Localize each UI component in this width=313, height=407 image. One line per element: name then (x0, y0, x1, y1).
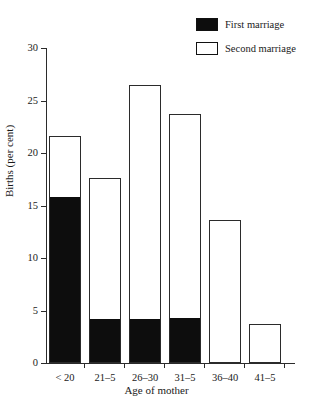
legend-label-first-marriage: First marriage (225, 19, 284, 30)
bar-category-0[interactable] (49, 136, 81, 363)
bar-chart-figure: First marriage Second marriage 0 5 10 15… (0, 0, 313, 407)
bar-segment-second-marriage (210, 221, 240, 362)
x-tick-2 (164, 363, 165, 368)
x-tick-label-3: 31–5 (169, 371, 201, 384)
bar-segment-second-marriage (130, 86, 160, 319)
x-tick-label-4: 36–40 (207, 371, 243, 384)
y-tick-label-10: 10 (28, 251, 39, 264)
y-tick-5: 5 (41, 311, 46, 312)
y-tick-label-15: 15 (28, 199, 39, 212)
x-tick-3 (204, 363, 205, 368)
y-tick-label-30: 30 (28, 41, 39, 54)
y-tick-15: 15 (41, 206, 46, 207)
x-tick-label-2: 26–30 (127, 371, 163, 384)
y-tick-10: 10 (41, 258, 46, 259)
legend-swatch-filled-icon (196, 18, 218, 31)
bar-category-2[interactable] (129, 85, 161, 363)
y-axis-line (46, 48, 47, 364)
plot-area: 0 5 10 15 20 25 30 (46, 46, 295, 365)
bar-segment-first-marriage (50, 197, 80, 362)
bar-segment-first-marriage (90, 319, 120, 362)
bar-segment-second-marriage (50, 137, 80, 197)
legend-item-first-marriage: First marriage (196, 14, 312, 34)
y-tick-label-20: 20 (28, 146, 39, 159)
y-tick-20: 20 (41, 153, 46, 154)
y-tick-label-25: 25 (28, 94, 39, 107)
bar-segment-first-marriage (170, 318, 200, 362)
x-axis-title: Age of mother (0, 384, 313, 396)
bar-segment-second-marriage (250, 325, 280, 362)
bar-category-4[interactable] (209, 220, 241, 363)
y-tick-label-0: 0 (33, 356, 38, 369)
bar-segment-second-marriage (90, 179, 120, 319)
x-tick-0 (84, 363, 85, 368)
bar-category-1[interactable] (89, 178, 121, 363)
bar-category-5[interactable] (249, 324, 281, 363)
y-tick-0: 0 (41, 363, 46, 364)
x-tick-label-0: < 20 (49, 371, 81, 384)
y-tick-label-5: 5 (33, 304, 38, 317)
x-tick-1 (124, 363, 125, 368)
x-tick-label-5: 41–5 (249, 371, 281, 384)
bar-segment-first-marriage (130, 319, 160, 362)
x-tick-4 (244, 363, 245, 368)
x-tick-5 (284, 363, 285, 368)
bar-segment-second-marriage (170, 115, 200, 318)
x-tick-label-1: 21–5 (89, 371, 121, 384)
y-axis-title: Births (per cent) (3, 81, 15, 241)
y-tick-25: 25 (41, 101, 46, 102)
y-tick-30: 30 (41, 48, 46, 49)
bar-category-3[interactable] (169, 114, 201, 363)
